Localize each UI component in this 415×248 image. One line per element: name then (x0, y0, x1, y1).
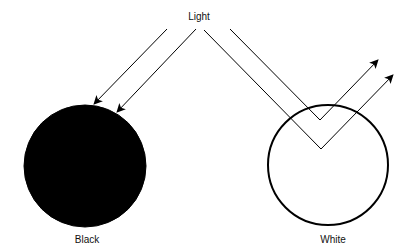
absorbed-ray-arrow-1 (94, 29, 167, 104)
light-absorption-reflection-diagram: Light Black White (0, 0, 415, 248)
reflected-ray-arrow-1 (230, 29, 378, 120)
black-circle (24, 105, 146, 227)
white-circle (268, 105, 388, 225)
white-label: White (320, 234, 346, 245)
absorbed-ray-arrow-2 (117, 29, 196, 112)
light-label: Light (188, 11, 210, 22)
black-label: Black (75, 234, 100, 245)
